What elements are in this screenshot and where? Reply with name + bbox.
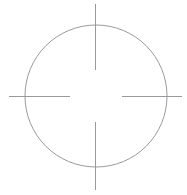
figure-background bbox=[0, 0, 187, 195]
crosshair-target-mark bbox=[0, 0, 187, 195]
figure-canvas bbox=[0, 0, 187, 195]
